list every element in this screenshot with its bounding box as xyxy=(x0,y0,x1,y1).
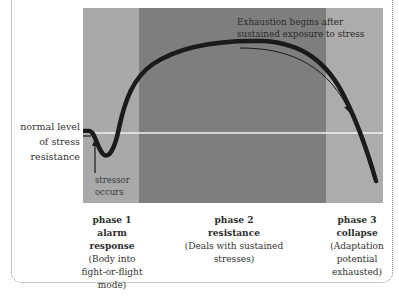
curve-line xyxy=(83,41,376,181)
exhaustion-annotation: Exhaustion begins after sustained exposu… xyxy=(237,16,364,40)
phase-1-label: phase 1 alarm response (Body into fight-… xyxy=(72,214,152,292)
y-axis-label: normal level of stress resistance xyxy=(0,119,80,164)
phase-2-label: phase 2 resistance (Deals with sustained… xyxy=(174,214,294,266)
stressor-annotation: stressor occurs xyxy=(95,174,130,198)
phase-3-label: phase 3 collapse (Adaptation potential e… xyxy=(322,214,392,279)
